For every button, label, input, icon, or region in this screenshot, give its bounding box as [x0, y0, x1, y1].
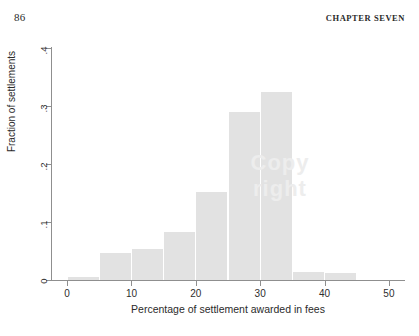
- histogram-bar: [164, 232, 195, 280]
- y-tick-label: .3: [38, 105, 49, 135]
- x-tick: [325, 281, 326, 286]
- x-axis-line: [51, 280, 405, 281]
- histogram-bar: [68, 277, 99, 280]
- histogram-bar: [325, 273, 356, 280]
- x-axis-title: Percentage of settlement awarded in fees: [51, 303, 405, 315]
- y-tick-label: .1: [38, 221, 49, 251]
- x-tick-label: 30: [240, 288, 280, 299]
- x-tick-label: 50: [369, 288, 409, 299]
- x-tick-label: 20: [176, 288, 216, 299]
- histogram-bar: [229, 112, 260, 280]
- histogram-bar: [261, 92, 292, 281]
- histogram-figure: 0.1.2.3.401020304050 Copy right Fraction…: [0, 0, 419, 336]
- x-tick: [389, 281, 390, 286]
- x-tick-label: 10: [111, 288, 151, 299]
- y-tick-label: .2: [38, 163, 49, 193]
- x-tick-label: 0: [47, 288, 87, 299]
- histogram-bar: [132, 249, 163, 280]
- y-axis-title: Fraction of settlements: [6, 12, 17, 192]
- x-tick: [67, 281, 68, 286]
- x-tick: [131, 281, 132, 286]
- x-tick: [260, 281, 261, 286]
- x-tick: [196, 281, 197, 286]
- histogram-bar: [100, 253, 131, 280]
- y-tick-label: .4: [38, 47, 49, 77]
- histogram-bar: [196, 192, 227, 280]
- x-tick-label: 40: [305, 288, 345, 299]
- histogram-bar: [293, 272, 324, 280]
